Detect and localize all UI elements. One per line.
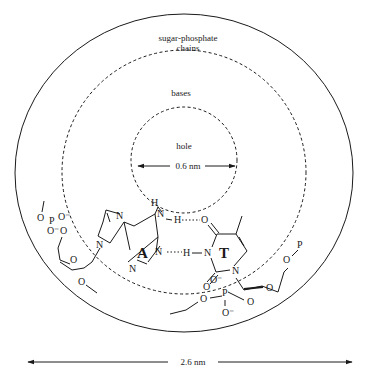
svg-text:O: O [200, 293, 207, 304]
svg-text:O: O [70, 254, 77, 265]
svg-text:N: N [155, 246, 162, 257]
base-label-t: T [219, 245, 229, 261]
label-sugar-phosphate: sugar-phosphate [159, 33, 218, 43]
svg-text:N: N [232, 265, 239, 276]
label-chains: chains [177, 43, 200, 53]
svg-text:O: O [60, 225, 67, 236]
label-bases: bases [171, 88, 191, 98]
h-atom-top: H [174, 214, 181, 225]
svg-text:N: N [116, 210, 123, 221]
svg-text:O: O [78, 276, 85, 287]
svg-text:O⁻: O⁻ [47, 225, 59, 236]
adenine-structure: N N N N N H A [96, 197, 172, 274]
svg-text:O: O [201, 214, 208, 225]
svg-text:O: O [283, 254, 290, 265]
svg-text:O⁻: O⁻ [210, 274, 222, 285]
svg-text:O: O [37, 212, 44, 223]
svg-text:O⁻: O⁻ [58, 211, 70, 222]
svg-text:P: P [222, 287, 228, 298]
base-label-a: A [137, 245, 148, 261]
label-hole: hole [176, 141, 192, 151]
hole-diameter-label: 0.6 nm [175, 161, 200, 171]
svg-text:O⁻: O⁻ [222, 307, 234, 318]
outer-circle-sugar-phosphate [15, 14, 353, 332]
inner-circle-hole [131, 107, 237, 213]
svg-text:H: H [151, 197, 158, 208]
left-sugar-phosphate: O P O⁻ O⁻ O O O [37, 201, 100, 293]
h-atom-bottom: H [183, 247, 190, 258]
svg-text:P: P [297, 239, 303, 250]
svg-text:N: N [129, 263, 136, 274]
svg-text:N: N [204, 247, 211, 258]
total-diameter-label: 2.6 nm [180, 357, 205, 367]
svg-text:O: O [266, 282, 273, 293]
dna-cross-section-diagram: sugar-phosphate chains bases hole 0.6 nm… [0, 0, 368, 379]
svg-text:O: O [247, 296, 254, 307]
